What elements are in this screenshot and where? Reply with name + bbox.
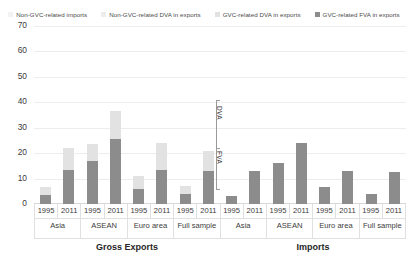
x-axis-year-10: 1995 xyxy=(267,204,290,219)
bar-segment xyxy=(273,163,284,204)
x-axis-category-row: AsiaASEANEuro areaFull sampleAsiaASEANEu… xyxy=(34,219,406,239)
chart-legend: Non-GVC-related imports Non-GVC-related … xyxy=(0,6,408,22)
x-axis-year-6: 1995 xyxy=(174,204,197,219)
x-axis-category-1: ASEAN xyxy=(81,219,127,239)
x-axis-category-4: Asia xyxy=(221,219,267,239)
bracket-tick-bottom xyxy=(216,189,220,190)
y-axis-tick-0: 0 xyxy=(1,199,27,207)
dva-label: DVA xyxy=(216,106,223,120)
bar-14 xyxy=(366,194,377,204)
legend-swatch-non-gvc-dva-exports xyxy=(101,12,106,17)
bar-segment xyxy=(342,171,353,204)
y-axis-tick-40: 40 xyxy=(1,97,27,105)
bar-segment xyxy=(226,196,237,204)
bar-segment xyxy=(366,194,377,204)
legend-swatch-gvc-dva-exports xyxy=(215,12,220,17)
bar-segment xyxy=(110,111,121,139)
legend-swatch-non-gvc-imports xyxy=(8,12,13,17)
x-axis-year-11: 2011 xyxy=(290,204,313,219)
bar-segment xyxy=(249,171,260,204)
bar-11 xyxy=(296,143,307,204)
bar-15 xyxy=(389,172,400,204)
x-axis-year-5: 2011 xyxy=(151,204,174,219)
bar-segment xyxy=(133,176,144,189)
bar-segment xyxy=(63,148,74,170)
fva-label: FVA xyxy=(216,151,223,164)
legend-label-gvc-dva-exports: GVC-related DVA in exports xyxy=(223,11,301,18)
x-axis-year-2: 1995 xyxy=(81,204,104,219)
y-axis-tick-30: 30 xyxy=(1,123,27,131)
bar-1 xyxy=(63,148,74,204)
x-axis-year-4: 1995 xyxy=(128,204,151,219)
x-axis-group-1: Imports xyxy=(220,242,406,252)
bracket-tick-top xyxy=(216,100,220,101)
bar-segment xyxy=(203,171,214,204)
x-axis-year-row: 1995201119952011199520111995201119952011… xyxy=(34,204,406,219)
bar-segment xyxy=(87,161,98,204)
x-axis-year-13: 2011 xyxy=(336,204,359,219)
x-axis-category-5: ASEAN xyxy=(267,219,313,239)
x-axis-year-7: 2011 xyxy=(197,204,220,219)
bar-segment xyxy=(156,170,167,204)
bar-segment xyxy=(180,194,191,204)
x-axis-category-7: Full sample xyxy=(360,219,406,239)
bar-8 xyxy=(226,196,237,204)
bar-4 xyxy=(133,176,144,204)
y-axis-tick-50: 50 xyxy=(1,72,27,80)
bar-segment xyxy=(180,186,191,194)
x-axis-year-0: 1995 xyxy=(34,204,58,219)
bracket-tick-mid xyxy=(216,148,220,149)
x-axis-year-14: 1995 xyxy=(360,204,383,219)
bar-5 xyxy=(156,143,167,204)
bar-segment xyxy=(389,172,400,204)
legend-item-gvc-fva-exports: GVC-related FVA in exports xyxy=(315,11,400,18)
x-axis-group-row: Gross ExportsImports xyxy=(34,242,406,252)
bar-7 xyxy=(203,151,214,204)
plot-area: DVAFVA xyxy=(34,26,406,204)
x-axis-group-0: Gross Exports xyxy=(34,242,220,252)
legend-item-gvc-dva-exports: GVC-related DVA in exports xyxy=(215,11,301,18)
x-axis-year-1: 2011 xyxy=(58,204,81,219)
bar-segment xyxy=(133,189,144,204)
bar-0 xyxy=(40,187,51,204)
y-axis-tick-70: 70 xyxy=(1,21,27,29)
x-axis-year-12: 1995 xyxy=(313,204,336,219)
legend-label-gvc-fva-exports: GVC-related FVA in exports xyxy=(323,11,400,18)
x-axis: 1995201119952011199520111995201119952011… xyxy=(34,204,406,252)
bar-segment xyxy=(87,144,98,161)
bar-segment xyxy=(40,187,51,195)
y-axis-tick-20: 20 xyxy=(1,148,27,156)
y-axis-tick-60: 60 xyxy=(1,46,27,54)
bar-3 xyxy=(110,111,121,204)
bar-segment xyxy=(296,143,307,204)
x-axis-category-2: Euro area xyxy=(128,219,174,239)
bar-segment xyxy=(110,139,121,204)
chart-container: Non-GVC-related imports Non-GVC-related … xyxy=(0,0,408,270)
bar-segment xyxy=(319,187,330,204)
x-axis-year-9: 2011 xyxy=(244,204,267,219)
x-axis-category-0: Asia xyxy=(34,219,81,239)
legend-item-non-gvc-dva-exports: Non-GVC-related DVA in exports xyxy=(101,11,200,18)
legend-item-non-gvc-imports: Non-GVC-related imports xyxy=(8,11,87,18)
bar-segment xyxy=(40,195,51,204)
y-axis-tick-10: 10 xyxy=(1,174,27,182)
bar-segment xyxy=(156,143,167,170)
bar-10 xyxy=(273,163,284,204)
x-axis-year-15: 2011 xyxy=(383,204,406,219)
bar-12 xyxy=(319,187,330,204)
bar-2 xyxy=(87,144,98,204)
x-axis-year-8: 1995 xyxy=(221,204,244,219)
x-axis-category-6: Euro area xyxy=(313,219,359,239)
bar-segment xyxy=(63,170,74,204)
bar-segment xyxy=(203,151,214,171)
y-axis-labels: 010203040506070 xyxy=(0,26,30,204)
x-axis-category-3: Full sample xyxy=(174,219,220,239)
legend-label-non-gvc-dva-exports: Non-GVC-related DVA in exports xyxy=(109,11,200,18)
bar-6 xyxy=(180,186,191,204)
bar-13 xyxy=(342,171,353,204)
x-axis-year-3: 2011 xyxy=(105,204,128,219)
legend-label-non-gvc-imports: Non-GVC-related imports xyxy=(16,11,87,18)
bar-9 xyxy=(249,171,260,204)
legend-swatch-gvc-fva-exports xyxy=(315,12,320,17)
